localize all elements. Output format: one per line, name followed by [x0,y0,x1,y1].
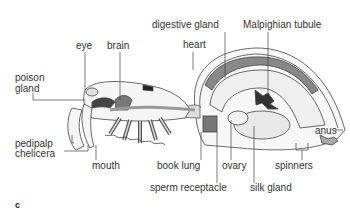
label-sperm-receptacle: sperm receptacle [150,182,227,193]
label-chelicera: chelicera [15,148,55,159]
panel-label: c [15,200,20,210]
label-poison-gland-1: poison [15,72,44,83]
label-eye: eye [76,40,92,51]
label-malpighian-tubule: Malpighian tubule [243,19,321,30]
label-poison-gland-2: gland [15,83,39,94]
label-anus: anus [315,125,337,136]
label-ovary: ovary [222,160,246,171]
label-digestive-gland: digestive gland [152,19,219,30]
spider-anatomy-diagram: eye brain poison gland digestive gland M… [0,0,350,213]
label-brain: brain [107,40,129,51]
cephalothorax [84,82,195,146]
label-mouth: mouth [92,160,120,171]
label-heart: heart [183,39,206,50]
label-silk-gland: silk gland [250,182,292,193]
label-book-lung: book lung [157,160,200,171]
label-spinners: spinners [275,160,313,171]
